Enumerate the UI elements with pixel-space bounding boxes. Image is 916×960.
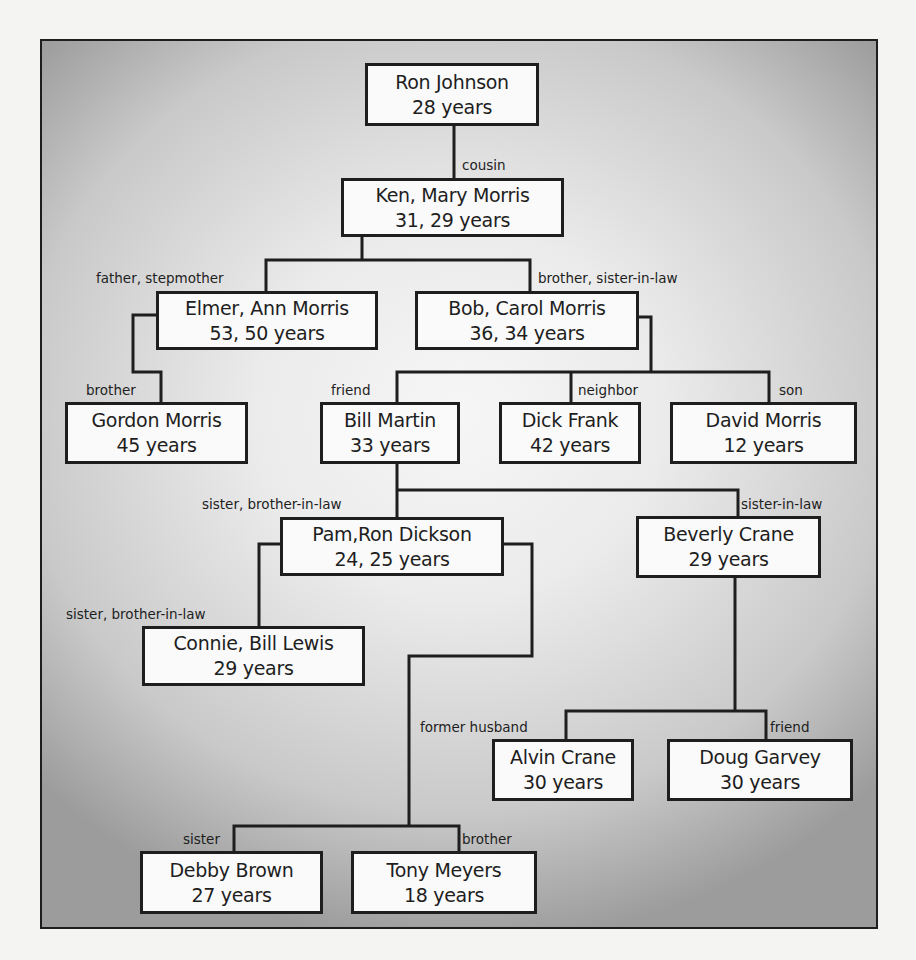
relation-label-friend-2: friend <box>770 719 810 735</box>
node-age: 30 years <box>720 770 800 795</box>
node-tony-meyers: Tony Meyers 18 years <box>351 851 537 914</box>
node-age: 29 years <box>213 656 293 681</box>
node-connie-bill-lewis: Connie, Bill Lewis 29 years <box>142 626 365 686</box>
node-pam-ron-dickson: Pam,Ron Dickson 24, 25 years <box>280 517 504 576</box>
node-age: 33 years <box>350 433 430 458</box>
node-name: Bill Martin <box>344 408 436 433</box>
node-age: 30 years <box>523 770 603 795</box>
relation-label-brother: brother <box>86 382 136 398</box>
node-ron-johnson: Ron Johnson 28 years <box>365 63 539 126</box>
relation-label-brother-sister-in-law: brother, sister-in-law <box>538 270 678 286</box>
node-age: 24, 25 years <box>334 547 449 572</box>
node-name: Tony Meyers <box>387 858 502 883</box>
relation-label-friend: friend <box>331 382 371 398</box>
node-age: 12 years <box>723 433 803 458</box>
node-age: 31, 29 years <box>395 208 510 233</box>
node-beverly-crane: Beverly Crane 29 years <box>636 516 821 578</box>
relation-label-sister-brother-in-law-2: sister, brother-in-law <box>66 606 206 622</box>
node-name: Debby Brown <box>169 858 293 883</box>
node-alvin-crane: Alvin Crane 30 years <box>492 739 634 801</box>
relation-label-son: son <box>779 382 803 398</box>
relation-label-sister-brother-in-law: sister, brother-in-law <box>202 496 342 512</box>
node-name: Alvin Crane <box>510 745 616 770</box>
relation-label-sister: sister <box>183 831 220 847</box>
node-name: Doug Garvey <box>699 745 820 770</box>
relation-label-neighbor: neighbor <box>578 382 638 398</box>
node-doug-garvey: Doug Garvey 30 years <box>667 739 853 801</box>
node-bill-martin: Bill Martin 33 years <box>320 402 460 464</box>
node-name: Ken, Mary Morris <box>375 183 529 208</box>
node-age: 18 years <box>404 883 484 908</box>
node-name: Beverly Crane <box>663 522 794 547</box>
node-david-morris: David Morris 12 years <box>670 402 857 464</box>
relation-label-cousin: cousin <box>462 157 506 173</box>
relation-label-brother-2: brother <box>462 831 512 847</box>
node-age: 45 years <box>116 433 196 458</box>
node-name: Connie, Bill Lewis <box>173 631 333 656</box>
node-age: 42 years <box>530 433 610 458</box>
node-debby-brown: Debby Brown 27 years <box>140 851 323 914</box>
node-name: Bob, Carol Morris <box>448 296 605 321</box>
node-name: Ron Johnson <box>395 70 509 95</box>
node-name: David Morris <box>706 408 822 433</box>
node-name: Elmer, Ann Morris <box>185 296 349 321</box>
node-age: 27 years <box>191 883 271 908</box>
node-age: 28 years <box>412 95 492 120</box>
node-dick-frank: Dick Frank 42 years <box>499 402 641 464</box>
node-gordon-morris: Gordon Morris 45 years <box>65 402 248 464</box>
node-name: Pam,Ron Dickson <box>312 522 471 547</box>
relation-label-father-stepmother: father, stepmother <box>96 270 224 286</box>
relation-label-sister-in-law: sister-in-law <box>741 496 822 512</box>
node-ken-mary-morris: Ken, Mary Morris 31, 29 years <box>341 178 564 237</box>
node-age: 53, 50 years <box>209 321 324 346</box>
node-age: 29 years <box>688 547 768 572</box>
node-name: Dick Frank <box>522 408 618 433</box>
node-elmer-ann-morris: Elmer, Ann Morris 53, 50 years <box>156 291 378 350</box>
node-bob-carol-morris: Bob, Carol Morris 36, 34 years <box>415 291 639 350</box>
node-name: Gordon Morris <box>91 408 221 433</box>
node-age: 36, 34 years <box>469 321 584 346</box>
relation-label-former-husband: former husband <box>420 719 528 735</box>
